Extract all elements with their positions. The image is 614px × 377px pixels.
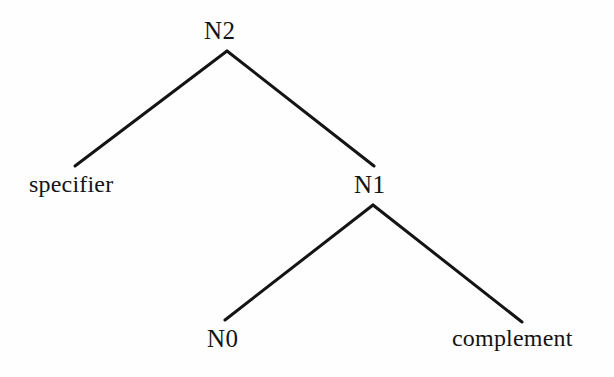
branch-n2-to-n1 [227,51,374,166]
branch-n1-to-n0 [225,205,373,320]
node-label-n1: N1 [354,172,386,197]
node-label-n2: N2 [204,18,236,43]
x-bar-tree-figure: N2 specifier N1 N0 complement [0,0,614,377]
branch-n1-to-complement [373,205,522,322]
branch-n2-to-specifier [75,51,227,166]
node-label-specifier: specifier [29,172,113,196]
node-label-complement: complement [452,326,573,350]
node-label-n0: N0 [207,326,239,351]
